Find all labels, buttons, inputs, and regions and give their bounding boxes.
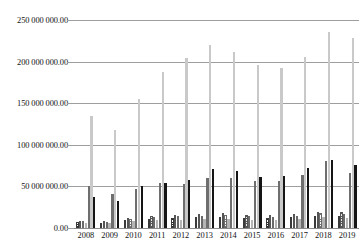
y-tick-label: 150 000 000.00	[0, 99, 68, 108]
bar-cluster	[288, 20, 312, 228]
bar	[259, 177, 261, 228]
bar	[164, 183, 166, 228]
bar	[141, 186, 143, 228]
bar	[354, 165, 356, 228]
bar-cluster	[335, 20, 359, 228]
bar-cluster	[264, 20, 288, 228]
bar-cluster	[217, 20, 241, 228]
x-tick-label: 2019	[339, 230, 356, 241]
y-tick-label: 250 000 000.00	[0, 16, 68, 25]
y-tick-label: 0.00	[0, 224, 68, 233]
bar-cluster	[312, 20, 336, 228]
y-axis: 250 000 000.00200 000 000.00150 000 000.…	[0, 0, 68, 247]
bar	[188, 180, 190, 228]
bar	[117, 201, 119, 228]
x-tick-label: 2012	[173, 230, 190, 241]
y-tick-mark	[67, 186, 74, 187]
bar	[93, 197, 95, 228]
y-tick-mark	[67, 20, 74, 21]
x-tick-label: 2009	[101, 230, 118, 241]
x-tick-label: 2013	[196, 230, 213, 241]
y-tick-label: 100 000 000.00	[0, 140, 68, 149]
x-tick-label: 2015	[244, 230, 261, 241]
y-tick-mark	[67, 62, 74, 63]
bar	[331, 160, 333, 228]
bar-chart: 250 000 000.00200 000 000.00150 000 000.…	[0, 0, 363, 247]
bar	[283, 176, 285, 228]
bar-cluster	[74, 20, 98, 228]
bar-cluster	[193, 20, 217, 228]
y-tick-label: 50 000 000.00	[0, 182, 68, 191]
bars-layer	[74, 20, 359, 228]
plot-area	[74, 20, 359, 228]
y-tick-mark	[67, 228, 74, 229]
bar-cluster	[240, 20, 264, 228]
x-tick-label: 2010	[125, 230, 142, 241]
y-tick-mark	[67, 103, 74, 104]
y-tick-mark	[67, 145, 74, 146]
bar	[236, 171, 238, 228]
x-tick-label: 2011	[149, 230, 165, 241]
bar	[307, 168, 309, 228]
x-tick-label: 2017	[291, 230, 308, 241]
x-tick-label: 2008	[78, 230, 95, 241]
gridline	[74, 228, 359, 229]
x-tick-label: 2016	[268, 230, 285, 241]
bar-cluster	[145, 20, 169, 228]
bar	[212, 169, 214, 228]
x-tick-label: 2014	[220, 230, 237, 241]
bar-cluster	[169, 20, 193, 228]
x-axis: 2008200920102011201220132014201520162017…	[74, 230, 359, 246]
y-tick-label: 200 000 000.00	[0, 57, 68, 66]
bar-cluster	[98, 20, 122, 228]
bar-cluster	[122, 20, 146, 228]
x-tick-label: 2018	[315, 230, 332, 241]
